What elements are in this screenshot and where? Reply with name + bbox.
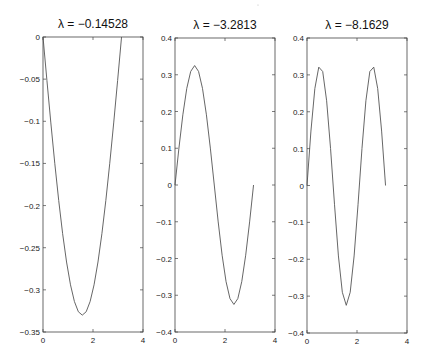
data-line bbox=[43, 37, 122, 315]
y-tick-label: −0.3 bbox=[156, 291, 172, 300]
y-tick-label: −0.3 bbox=[24, 286, 40, 295]
y-tick-label: 0.2 bbox=[293, 108, 305, 117]
y-tick-label: −0.4 bbox=[288, 329, 304, 338]
x-tick-label: 2 bbox=[355, 337, 360, 346]
x-tick-label: 0 bbox=[305, 337, 310, 346]
y-tick-label: 0.3 bbox=[161, 71, 173, 80]
y-tick-label: 0.4 bbox=[293, 34, 305, 43]
x-tick-label: 4 bbox=[405, 337, 410, 346]
y-tick-label: −0.25 bbox=[20, 244, 41, 253]
y-tick-label: 0.3 bbox=[293, 71, 305, 80]
y-tick-label: 0.1 bbox=[293, 145, 305, 154]
y-tick-label: −0.2 bbox=[24, 202, 40, 211]
x-tick-label: 0 bbox=[173, 336, 178, 345]
axes-box bbox=[307, 38, 407, 333]
axes-box bbox=[175, 38, 275, 332]
x-tick-label: 0 bbox=[41, 336, 46, 345]
y-tick-label: 0.4 bbox=[161, 34, 173, 43]
y-tick-label: 0 bbox=[300, 182, 305, 191]
data-line bbox=[175, 66, 254, 305]
subplot-title: λ = −3.2813 bbox=[193, 18, 257, 32]
subplot-1: λ = −0.145280240−0.05−0.1−0.15−0.2−0.25−… bbox=[20, 17, 146, 345]
x-tick-label: 4 bbox=[141, 336, 146, 345]
subplot-2: λ = −3.28130240.40.30.20.10−0.1−0.2−0.3−… bbox=[156, 18, 278, 345]
y-tick-label: 0.2 bbox=[161, 108, 173, 117]
y-tick-label: −0.1 bbox=[288, 218, 304, 227]
y-tick-label: −0.3 bbox=[288, 292, 304, 301]
y-tick-label: −0.05 bbox=[20, 75, 41, 84]
y-tick-label: 0 bbox=[36, 33, 41, 42]
y-tick-label: −0.2 bbox=[156, 255, 172, 264]
stray-dot bbox=[257, 4, 258, 5]
y-tick-label: −0.1 bbox=[156, 218, 172, 227]
y-tick-label: 0 bbox=[168, 181, 173, 190]
y-tick-label: −0.15 bbox=[20, 159, 41, 168]
subplot-title: λ = −0.14528 bbox=[58, 17, 128, 31]
y-tick-label: −0.35 bbox=[20, 328, 41, 337]
x-tick-label: 4 bbox=[273, 336, 278, 345]
y-tick-label: −0.4 bbox=[156, 328, 172, 337]
y-tick-label: −0.1 bbox=[24, 117, 40, 126]
subplot-title: λ = −8.1629 bbox=[325, 18, 389, 32]
data-line bbox=[307, 67, 386, 305]
y-tick-label: 0.1 bbox=[161, 144, 173, 153]
x-tick-label: 2 bbox=[91, 336, 96, 345]
x-tick-label: 2 bbox=[223, 336, 228, 345]
subplot-3: λ = −8.16290240.40.30.20.10−0.1−0.2−0.3−… bbox=[288, 18, 410, 346]
figure: λ = −0.145280240−0.05−0.1−0.15−0.2−0.25−… bbox=[0, 0, 430, 364]
y-tick-label: −0.2 bbox=[288, 255, 304, 264]
